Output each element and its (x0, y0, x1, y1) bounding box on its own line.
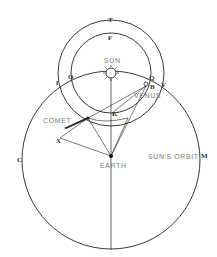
comet-label: COMET (43, 117, 71, 124)
letter-t: T (108, 17, 113, 24)
letter-b: B (150, 84, 155, 91)
earth-label: EARTH (100, 162, 127, 169)
letter-q: Q (149, 75, 154, 82)
letter-v: V (161, 82, 166, 89)
letter-k: K (112, 111, 117, 118)
letter-x: X (56, 138, 61, 145)
letter-f: F (108, 35, 112, 42)
letter-m: M (201, 153, 208, 160)
suns-orbit-label: SUN'S ORBIT (148, 153, 199, 160)
letter-c: C (17, 157, 22, 164)
sun-label: SUN (104, 57, 121, 64)
venus-icon (144, 82, 148, 86)
venus-label: VENUS (134, 92, 161, 99)
letter-left-outer: f (56, 80, 58, 87)
earth-icon (109, 154, 113, 158)
letter-o: O (68, 74, 73, 81)
